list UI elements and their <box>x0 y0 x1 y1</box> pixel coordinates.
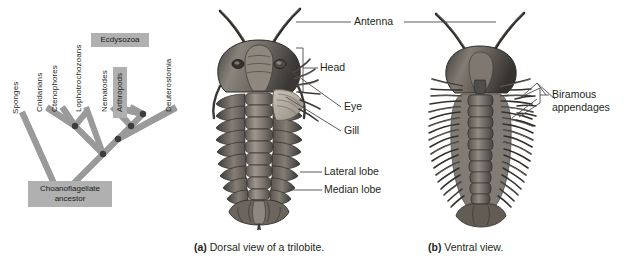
caption-ventral-text: Ventral view. <box>444 241 503 253</box>
label-lateral-lobe: Lateral lobe <box>324 165 379 177</box>
label-biramous-appendages-line1: Biramous <box>552 88 610 101</box>
label-median-lobe: Median lobe <box>324 183 381 195</box>
caption-dorsal: (a) Dorsal view of a trilobite. <box>194 241 324 254</box>
label-eye: Eye <box>344 100 362 112</box>
trilobite-figure: Sponges Cnidarians Ctenophores Lophotroc… <box>0 0 628 268</box>
callout-leaders <box>0 0 628 268</box>
label-biramous-appendages: Biramous appendages <box>552 88 610 114</box>
caption-dorsal-text: Dorsal view of a trilobite. <box>210 241 324 253</box>
label-gill: Gill <box>344 124 359 136</box>
caption-ventral-letter: (b) <box>428 241 441 253</box>
caption-ventral: (b) Ventral view. <box>428 241 503 254</box>
caption-dorsal-letter: (a) <box>194 241 207 253</box>
label-biramous-appendages-line2: appendages <box>552 101 610 114</box>
label-antenna: Antenna <box>354 15 393 27</box>
label-head: Head <box>320 61 345 73</box>
